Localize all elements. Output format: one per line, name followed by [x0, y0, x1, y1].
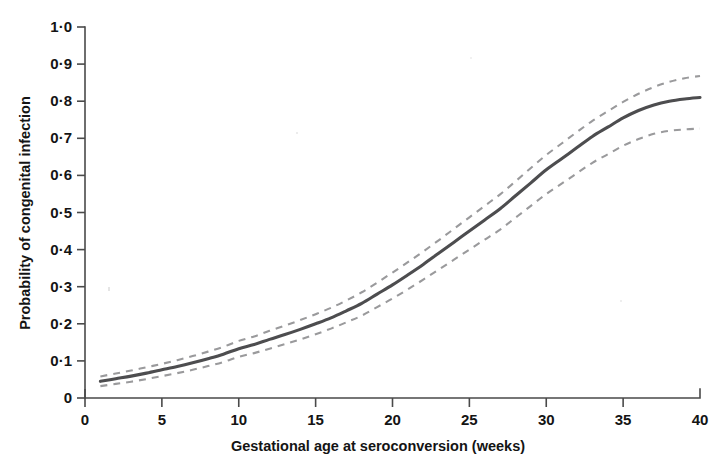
x-axis-title: Gestational age at seroconversion (weeks…: [231, 438, 525, 454]
x-axis-tick-label: 15: [307, 411, 324, 428]
x-axis-tick-label: 20: [384, 411, 401, 428]
x-axis-tick-label: 30: [538, 411, 555, 428]
y-axis-tick-label: 0·1: [50, 352, 72, 369]
y-axis-tick-label: 0·7: [50, 129, 72, 146]
y-axis-tick-label: 0·3: [50, 278, 72, 295]
y-axis-tick-label: 0·8: [50, 92, 72, 109]
y-axis-tick-label: 0·4: [50, 241, 72, 258]
y-axis-tick-label: 0·2: [50, 315, 72, 332]
probability-of-congenital-infection-line-chart: 00·10·20·30·40·50·60·70·80·91·0 05101520…: [0, 0, 719, 465]
x-axis-tick-label: 35: [615, 411, 632, 428]
y-axis-tick-label: 0·6: [50, 166, 72, 183]
x-axis-tick-label: 5: [158, 411, 166, 428]
chart-figure: 00·10·20·30·40·50·60·70·80·91·0 05101520…: [0, 0, 719, 465]
y-axis-tick-label: 1·0: [50, 18, 72, 35]
x-axis-tick-label: 40: [692, 411, 709, 428]
y-axis-tick-label: 0·9: [50, 55, 72, 72]
x-axis-tick-label: 10: [230, 411, 247, 428]
chart-background: [0, 0, 719, 465]
y-axis-tick-label: 0·5: [50, 204, 72, 221]
y-axis-tick-label: 0: [64, 389, 72, 406]
x-axis-tick-label: 25: [461, 411, 478, 428]
y-axis-title: Probability of congenital infection: [17, 96, 33, 330]
x-axis-tick-label: 0: [81, 411, 89, 428]
